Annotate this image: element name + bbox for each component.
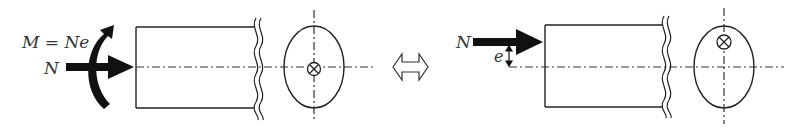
left-break-line-icon	[254, 18, 263, 120]
eccentricity-dimension-icon	[506, 46, 512, 66]
left-panel: M = Ne N	[21, 10, 376, 122]
left-cross-section	[284, 10, 344, 122]
left-force-label: N	[43, 58, 60, 78]
left-force-arrow-icon	[66, 55, 134, 79]
right-member	[545, 25, 662, 107]
right-force-label: N	[455, 32, 472, 52]
right-panel: N e	[455, 8, 784, 124]
moment-label: M = Ne	[21, 32, 89, 52]
right-load-point-cross-icon	[717, 35, 731, 49]
right-cross-section	[694, 8, 754, 124]
eccentricity-label: e	[494, 47, 503, 66]
equivalence-double-arrow-icon	[393, 54, 428, 80]
eccentric-load-diagram: M = Ne N	[0, 0, 796, 134]
left-load-point-cross-icon	[308, 63, 321, 76]
